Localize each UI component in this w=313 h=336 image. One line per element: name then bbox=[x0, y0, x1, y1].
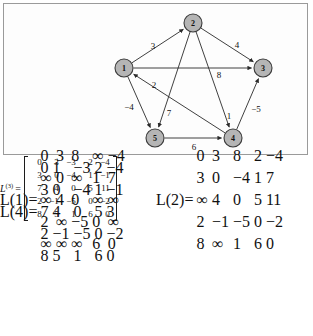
edge-weight-2-3: 4 bbox=[235, 40, 240, 50]
matrix-cell-value: 1 bbox=[232, 234, 251, 254]
matrix-cell-value: 0 bbox=[265, 234, 284, 254]
matrix-cell-value: 4 bbox=[211, 190, 230, 210]
edge-weight-4-3: −5 bbox=[251, 104, 261, 114]
matrix-cell-value: 0 bbox=[106, 246, 125, 266]
matrix-cell-value: 7 bbox=[265, 168, 284, 188]
matrix-cell-value: 3 bbox=[211, 146, 230, 166]
matrix-L2: L(2)= 0382−430−417∞405112−1−50−28∞160 bbox=[156, 156, 313, 244]
graph-node-label-3: 3 bbox=[261, 64, 265, 73]
matrix-row: ∞40511 bbox=[195, 190, 284, 210]
matrix-cell-value: 1 bbox=[73, 246, 92, 266]
graph-edge-2-3 bbox=[201, 28, 253, 62]
matrix-cell-value: −5 bbox=[232, 212, 251, 232]
matrix-cell-value: 0 bbox=[39, 158, 49, 178]
matrix-L4: L(4)= 01−32−430−41−1740532−1−50−285160 bbox=[0, 156, 127, 268]
matrix-cell-value: 7 bbox=[39, 202, 49, 222]
graph-panel: 38−44172−56 12345 bbox=[3, 3, 308, 155]
matrix-cell-value: 0 bbox=[51, 180, 70, 200]
edge-weight-4-1: 2 bbox=[152, 80, 157, 90]
matrix-row: 0382−4 bbox=[195, 146, 284, 166]
matrix-cell-value: ∞ bbox=[211, 234, 230, 254]
matrix-row: 74053 bbox=[39, 202, 124, 222]
graph-node-label-5: 5 bbox=[153, 134, 157, 143]
matrix-cell-value: −4 bbox=[232, 168, 251, 188]
matrix-cell-value: −1 bbox=[106, 180, 125, 200]
matrix-row: 8∞160 bbox=[195, 234, 284, 254]
edge-weight-1-2: 3 bbox=[151, 41, 156, 51]
matrix-cell-value: 2 bbox=[195, 212, 208, 232]
edge-weight-1-5: −4 bbox=[124, 102, 134, 112]
matrix-cell-value: 5 bbox=[253, 190, 263, 210]
matrix-cell-value: 3 bbox=[39, 180, 49, 200]
matrix-cell-value: 1 bbox=[51, 158, 70, 178]
matrix-cell-value: 6 bbox=[253, 234, 263, 254]
matrix-cell-value: −4 bbox=[265, 146, 284, 166]
matrix-cell-value: 3 bbox=[106, 202, 125, 222]
matrix-row: 30−417 bbox=[195, 168, 284, 188]
matrix-cell-value: 11 bbox=[265, 190, 284, 210]
nodes-layer: 12345 bbox=[115, 14, 272, 147]
matrix-cell-value: 4 bbox=[51, 202, 70, 222]
matrix-cell-value: 3 bbox=[195, 168, 208, 188]
matrix-cell-value: 5 bbox=[94, 202, 104, 222]
matrix-L2-table: 0382−430−417∞405112−1−50−28∞160 bbox=[193, 144, 286, 256]
matrix-cell-value: ∞ bbox=[195, 190, 208, 210]
matrix-row: 01−32−4 bbox=[39, 158, 124, 178]
matrix-cell-value: 0 bbox=[211, 168, 230, 188]
graph-node-label-1: 1 bbox=[122, 64, 126, 73]
matrix-L4-label: L(4)= bbox=[0, 203, 37, 221]
graph-edge-4-1 bbox=[134, 74, 225, 133]
matrix-L2-body: 0382−430−417∞405112−1−50−28∞160 bbox=[193, 144, 286, 256]
matrix-row: 85160 bbox=[39, 246, 124, 266]
matrix-grid: L(1)= 038∞−4∞0∞17∞40∞∞2∞−50∞∞∞∞60 L(2)= … bbox=[0, 156, 313, 336]
matrix-cell-value: 2 bbox=[253, 146, 263, 166]
matrix-cell-value: −3 bbox=[73, 158, 92, 178]
matrix-cell-value: −2 bbox=[265, 212, 284, 232]
matrix-cell-value: 0 bbox=[232, 190, 251, 210]
matrix-cell-value: 8 bbox=[195, 234, 208, 254]
matrix-cell-value: 8 bbox=[232, 146, 251, 166]
matrix-cell-value: −1 bbox=[211, 212, 230, 232]
graph-edge-2-5 bbox=[159, 32, 190, 127]
matrix-row: 2−1−50−2 bbox=[195, 212, 284, 232]
matrix-cell-value: 5 bbox=[51, 246, 70, 266]
matrix-cell-value: 0 bbox=[253, 212, 263, 232]
matrix-cell-value: 6 bbox=[94, 246, 104, 266]
matrix-L2-label: L(2)= bbox=[156, 191, 193, 209]
matrix-cell-value: −1 bbox=[51, 224, 70, 244]
matrix-cell-value: −2 bbox=[106, 224, 125, 244]
matrix-L4-table: 01−32−430−41−1740532−1−50−285160 bbox=[37, 156, 126, 268]
matrix-cell-value: 2 bbox=[94, 158, 104, 178]
graph-node-label-2: 2 bbox=[191, 19, 195, 28]
edge-weight-2-5: 7 bbox=[167, 108, 172, 118]
matrix-cell-value: 2 bbox=[39, 224, 49, 244]
matrix-cell-value: −4 bbox=[73, 180, 92, 200]
matrix-cell-value: 8 bbox=[39, 246, 49, 266]
edge-weight-1-3: 8 bbox=[217, 70, 222, 80]
matrix-cell-value: −4 bbox=[106, 158, 125, 178]
matrix-L4-body: 01−32−430−41−1740532−1−50−285160 bbox=[37, 156, 126, 268]
matrix-cell-value: 1 bbox=[253, 168, 263, 188]
graph-edge-1-2 bbox=[132, 29, 183, 63]
graph-edge-2-4 bbox=[196, 32, 229, 127]
matrix-cell-value: 0 bbox=[94, 224, 104, 244]
edge-weight-2-4: 1 bbox=[227, 111, 232, 121]
directed-graph: 38−44172−56 12345 bbox=[4, 4, 307, 154]
graph-node-label-4: 4 bbox=[231, 134, 235, 143]
matrix-row: 30−41−1 bbox=[39, 180, 124, 200]
figure-root: 38−44172−56 12345 L(1)= 038∞−4∞0∞17∞40∞∞… bbox=[0, 0, 313, 336]
matrix-cell-value: 0 bbox=[195, 146, 208, 166]
matrix-row: 2−1−50−2 bbox=[39, 224, 124, 244]
matrix-cell-value: −5 bbox=[73, 224, 92, 244]
matrix-cell-value: 1 bbox=[94, 180, 104, 200]
matrix-cell-value: 0 bbox=[73, 202, 92, 222]
